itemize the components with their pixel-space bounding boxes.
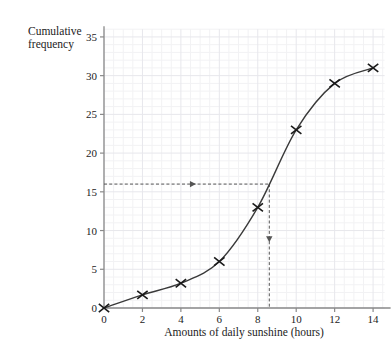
axis-ticks [100, 37, 373, 312]
x-tick-label: 14 [368, 313, 379, 325]
x-tick-label: 2 [140, 313, 146, 325]
y-tick-label: 5 [92, 263, 98, 275]
y-tick-label: 10 [86, 225, 97, 237]
x-tick-label: 10 [291, 313, 302, 325]
minor-gridlines [104, 29, 385, 308]
y-tick-label: 30 [86, 70, 97, 82]
y-tick-label: 15 [86, 186, 97, 198]
x-tick-label: 6 [217, 313, 223, 325]
x-tick-label: 8 [255, 313, 261, 325]
x-tick-label: 4 [178, 313, 184, 325]
y-tick-label: 20 [86, 147, 97, 159]
y-tick-label: 0 [92, 302, 98, 314]
y-tick-label: 25 [86, 108, 97, 120]
x-tick-label: 12 [329, 313, 340, 325]
cumulative-frequency-chart: Cumulative frequency Amounts of daily su… [0, 0, 392, 346]
x-tick-label: 0 [101, 313, 107, 325]
plot-area [0, 0, 392, 346]
y-tick-label: 35 [86, 31, 97, 43]
axis-lines [104, 26, 391, 308]
